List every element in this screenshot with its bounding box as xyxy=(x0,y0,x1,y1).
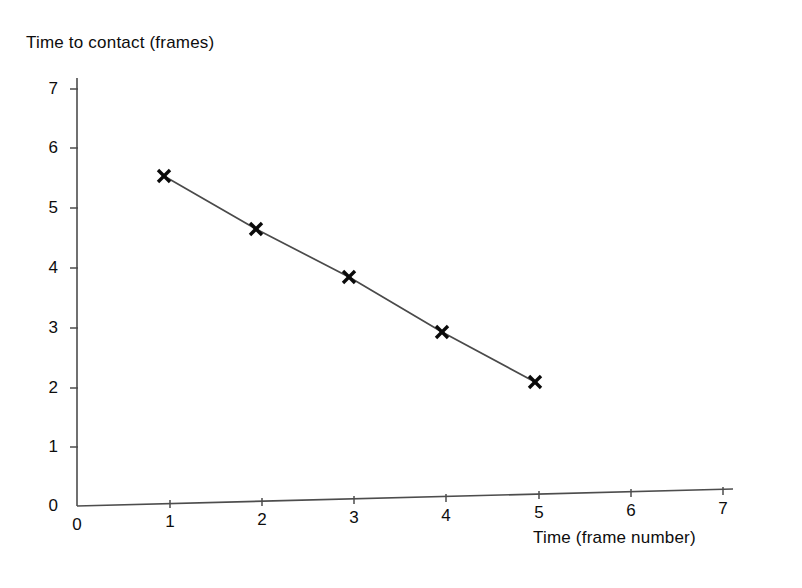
x-tick-label-3: 3 xyxy=(343,508,365,528)
x-tick-label-1: 1 xyxy=(159,512,181,532)
y-tick-label-7: 7 xyxy=(36,79,58,99)
x-tick-label-5: 5 xyxy=(528,503,550,523)
y-tick-label-5: 5 xyxy=(36,198,58,218)
plot-area xyxy=(0,0,802,588)
x-tick-label-0: 0 xyxy=(66,515,88,535)
y-tick-label-3: 3 xyxy=(36,318,58,338)
y-tick-label-2: 2 xyxy=(36,378,58,398)
data-point-marker xyxy=(158,170,170,182)
y-tick-label-0: 0 xyxy=(36,496,58,516)
x-tick-label-2: 2 xyxy=(251,510,273,530)
data-point-marker xyxy=(529,376,541,388)
y-tick-label-6: 6 xyxy=(36,138,58,158)
chart-figure: Time to contact (frames) Time (frame num… xyxy=(0,0,802,588)
data-point-marker xyxy=(436,326,448,338)
data-point-marker xyxy=(343,271,355,283)
y-tick-label-4: 4 xyxy=(36,258,58,278)
x-tick-label-7: 7 xyxy=(712,499,734,519)
y-tick-label-1: 1 xyxy=(36,437,58,457)
data-point-marker xyxy=(250,223,262,235)
x-tick-label-6: 6 xyxy=(620,501,642,521)
data-series xyxy=(158,170,541,388)
axes-group xyxy=(77,78,733,506)
x-tick-label-4: 4 xyxy=(435,506,457,526)
